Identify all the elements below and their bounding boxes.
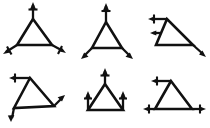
figure-2 [70, 0, 140, 64]
triangle-outline [155, 81, 192, 109]
figure-sheet [0, 0, 210, 128]
figure-5 [70, 64, 140, 128]
apex-arrow-head [30, 2, 36, 9]
left-arrow-head [8, 115, 15, 122]
figure-3 [140, 0, 210, 64]
triangle-outline [92, 22, 122, 48]
left-arrow-head [85, 91, 91, 98]
triangle-outline [156, 19, 193, 45]
apex-arrow-head [102, 68, 108, 75]
mid-left-arrow-head [150, 31, 156, 36]
figure-4 [0, 64, 70, 128]
triangle-outline [14, 78, 54, 108]
figure-1 [0, 0, 70, 64]
triangle-outline [88, 84, 123, 110]
figure-6 [140, 64, 210, 128]
apex-arrow-head [103, 3, 109, 10]
right-arrow-head [120, 91, 126, 98]
triangle-outline [17, 19, 52, 45]
